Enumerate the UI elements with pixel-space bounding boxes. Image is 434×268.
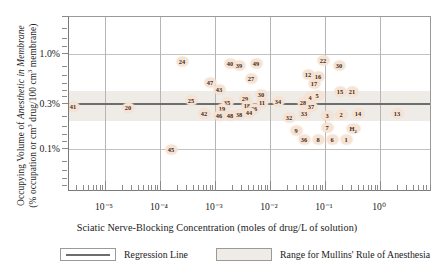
x-axis-minor-tick: [375, 185, 376, 191]
legend-label-regression: Regression Line: [124, 249, 188, 260]
x-axis-minor-tick: [232, 185, 233, 191]
x-axis-minor-tick: [177, 185, 178, 191]
y-tick-label-2: 0.3%: [20, 98, 60, 109]
data-point: 8: [313, 135, 324, 144]
x-axis-minor-tick: [186, 185, 187, 191]
x-axis-minor-tick: [406, 185, 407, 191]
x-axis-minor-tick: [430, 185, 431, 191]
x-axis-minor-tick: [198, 185, 199, 191]
y-axis-title: Occupying Volume of Anesthetic in Membra…: [16, 10, 39, 222]
plot-area: 4120244725424540394927433529181126304438…: [68, 16, 431, 191]
x-axis-minor-tick: [363, 185, 364, 191]
x-axis-minor-tick: [377, 185, 378, 191]
x-axis-minor-tick: [155, 185, 156, 191]
data-point: 1: [341, 135, 352, 144]
x-axis-minor-tick: [322, 185, 323, 191]
x-axis-minor-tick: [203, 185, 204, 191]
data-point: 30: [256, 90, 267, 99]
data-point: 25: [186, 96, 197, 105]
data-point: 20: [123, 103, 134, 112]
data-point: 42: [199, 109, 210, 118]
x-axis-title: Sciatic Nerve-Blocking Concentration (mo…: [0, 222, 434, 233]
x-axis-minor-tick: [151, 185, 152, 191]
data-point: 16: [313, 72, 324, 81]
x-axis-minor-tick: [303, 185, 304, 191]
x-axis-minor-tick: [143, 185, 144, 191]
data-point: 2: [336, 110, 347, 119]
x-axis-minor-tick: [371, 185, 372, 191]
data-point: 13: [392, 109, 403, 118]
gridline-y-0.1pct: [69, 149, 430, 150]
x-axis-minor-tick: [287, 185, 288, 191]
x-axis-minor-tick: [206, 185, 207, 191]
x-axis-minor-tick: [122, 185, 123, 191]
x-axis-minor-tick: [210, 185, 211, 191]
data-point: 41: [68, 102, 79, 111]
x-axis-minor-tick: [316, 185, 317, 191]
data-point: 39: [234, 61, 245, 70]
data-point: 5: [312, 91, 323, 100]
x-axis-minor-tick: [83, 185, 84, 191]
data-point: 30: [334, 61, 345, 70]
x-axis-minor-tick: [267, 185, 268, 191]
data-point: 48: [225, 111, 236, 120]
data-point: 21: [347, 87, 358, 96]
x-axis-minor-tick: [241, 185, 242, 191]
x-axis-minor-tick: [296, 185, 297, 191]
x-axis-minor-tick: [418, 185, 419, 191]
data-point: 36: [299, 135, 310, 144]
x-axis-minor-tick: [261, 185, 262, 191]
gridline-y-1pct: [69, 54, 430, 55]
x-axis-minor-tick: [105, 181, 106, 191]
x-axis-minor-tick: [248, 185, 249, 191]
x-axis-minor-tick: [157, 185, 158, 191]
data-point: 9: [291, 126, 302, 135]
data-point: 12: [303, 70, 314, 79]
x-axis-minor-tick: [351, 185, 352, 191]
data-point: 49: [251, 59, 262, 68]
x-axis-minor-tick: [212, 185, 213, 191]
x-axis-minor-tick: [265, 185, 266, 191]
x-axis-minor-tick: [397, 185, 398, 191]
x-tick-label-2: 10⁻⁴: [139, 201, 179, 212]
data-point: 47: [205, 78, 216, 87]
data-point: 7: [322, 123, 333, 132]
legend-line-glyph: [66, 254, 110, 256]
x-axis-minor-tick: [148, 185, 149, 191]
x-axis-minor-tick: [342, 185, 343, 191]
x-axis-minor-tick: [258, 185, 259, 191]
x-axis-minor-tick: [320, 185, 321, 191]
data-point: 45: [166, 145, 177, 154]
x-axis-minor-tick: [313, 185, 314, 191]
data-point: H2: [347, 124, 360, 133]
y-axis-title-line1: Occupying Volume of Anesthetic in Membra…: [16, 10, 28, 222]
y-axis-title-line2: (% occupation or cm3 drug/100 cm3 membra…: [28, 10, 40, 222]
data-point: 33: [299, 109, 310, 118]
x-axis-minor-tick: [93, 185, 94, 191]
x-axis-minor-tick: [325, 181, 326, 191]
legend-swatch-mullins-band: [216, 248, 272, 261]
x-tick-label-3: 10⁻³: [194, 201, 234, 212]
x-axis-minor-tick: [215, 181, 216, 191]
y-tick-label-3: 0.1%: [20, 143, 60, 154]
data-point: 3: [322, 111, 333, 120]
x-axis-minor-tick: [270, 181, 271, 191]
x-axis-minor-tick: [380, 181, 381, 191]
x-axis-minor-tick: [193, 185, 194, 191]
x-axis-minor-tick: [100, 185, 101, 191]
data-point: 27: [246, 74, 257, 83]
data-point: 44: [244, 108, 255, 117]
x-axis-minor-tick: [138, 185, 139, 191]
data-point: 32: [284, 113, 295, 122]
x-tick-label-5: 10⁻¹: [304, 201, 344, 212]
x-axis-minor-tick: [308, 185, 309, 191]
legend-label-mullins: Range for Mullins' Rule of Anesthesia: [280, 249, 430, 260]
legend: Regression Line Range for Mullins' Rule …: [0, 246, 434, 266]
x-axis-minor-tick: [88, 185, 89, 191]
data-point: 24: [177, 57, 188, 66]
x-axis-minor-tick: [76, 185, 77, 191]
figure-root: Occupying Volume of Anesthetic in Membra…: [0, 0, 434, 268]
x-tick-label-6: 10⁰: [359, 201, 399, 212]
legend-swatch-regression-line: [60, 248, 116, 261]
x-axis-minor-tick: [368, 185, 369, 191]
